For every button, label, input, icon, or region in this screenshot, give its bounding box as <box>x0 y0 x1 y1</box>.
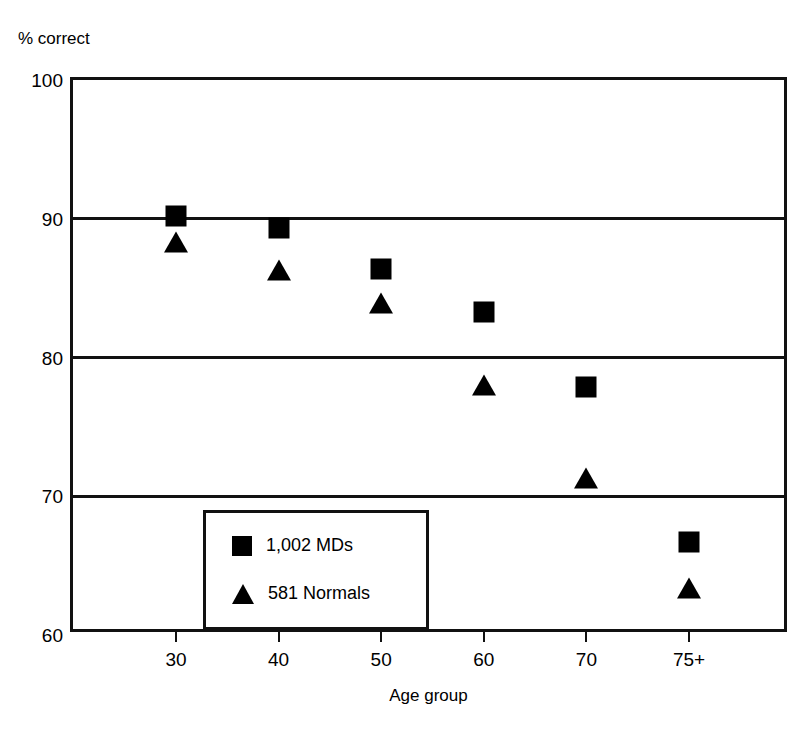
y-tick-label-70: 70 <box>42 486 63 507</box>
legend-entry-mds: 1,002 MDs <box>232 535 353 556</box>
gridline-80 <box>73 356 784 359</box>
gridline-70 <box>73 495 784 498</box>
x-tick-mark-40 <box>278 629 280 642</box>
x-tick-label-75+: 75+ <box>673 649 705 671</box>
y-tick-label-90: 90 <box>42 208 63 229</box>
data-point-square-70 <box>576 376 597 397</box>
data-point-triangle-60 <box>472 375 496 396</box>
data-point-square-50 <box>371 258 392 279</box>
legend-entry-normals: 581 Normals <box>232 583 370 604</box>
square-marker-icon <box>232 536 252 556</box>
data-point-triangle-30 <box>164 232 188 253</box>
x-tick-mark-70 <box>585 629 587 642</box>
data-point-triangle-40 <box>267 260 291 281</box>
y-axis-caption: % correct <box>18 29 90 49</box>
y-tick-label-80: 80 <box>42 347 63 368</box>
triangle-marker-icon <box>232 584 254 604</box>
x-tick-mark-50 <box>380 629 382 642</box>
legend-label-normals: 581 Normals <box>268 583 370 604</box>
data-point-square-30 <box>166 205 187 226</box>
legend-label-mds: 1,002 MDs <box>266 535 353 556</box>
scatter-chart-figure: % correct 60708090100 304050607075+ 1,00… <box>0 0 809 735</box>
x-axis-title: Age group <box>70 686 787 706</box>
y-tick-label-60: 60 <box>42 625 63 646</box>
data-point-triangle-50 <box>369 293 393 314</box>
x-tick-mark-75+ <box>688 629 690 642</box>
data-point-triangle-75+ <box>677 577 701 598</box>
data-point-triangle-70 <box>574 468 598 489</box>
x-tick-mark-60 <box>483 629 485 642</box>
x-tick-mark-30 <box>175 629 177 642</box>
y-tick-label-100: 100 <box>31 70 63 91</box>
x-tick-label-30: 30 <box>165 649 186 671</box>
plot-area: 60708090100 304050607075+ 1,002 MDs 581 … <box>70 77 787 632</box>
chart-legend: 1,002 MDs 581 Normals <box>203 510 429 630</box>
x-tick-label-50: 50 <box>371 649 392 671</box>
data-point-square-60 <box>473 301 494 322</box>
x-tick-label-70: 70 <box>576 649 597 671</box>
x-tick-label-40: 40 <box>268 649 289 671</box>
data-point-square-40 <box>268 218 289 239</box>
data-point-square-75+ <box>679 532 700 553</box>
x-tick-label-60: 60 <box>473 649 494 671</box>
